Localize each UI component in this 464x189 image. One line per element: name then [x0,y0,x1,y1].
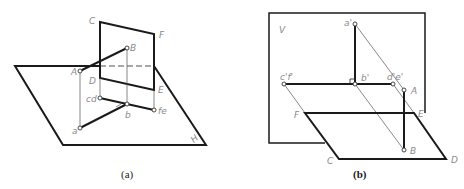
point-A [78,69,82,73]
label-F: F [294,110,300,120]
label-fe: fe [158,106,167,116]
point-B [125,46,129,50]
caption-b: (b) [353,168,367,181]
label-B: B [130,43,136,53]
point-A [402,88,406,92]
point-de-prime [391,82,395,86]
label-b: b [125,110,131,120]
figure-a: C F B A D E cd b fe a H (a) [15,16,206,181]
label-C: C [89,16,96,26]
plane-cdef-horizontal [305,113,446,159]
label-E: E [158,85,164,95]
label-de-prime: d'e' [387,72,403,82]
label-D: D [451,155,458,165]
point-a [78,126,82,130]
caption-a: (a) [121,168,134,181]
label-B: B [410,146,416,156]
line-ab [80,48,127,71]
point-b [125,102,129,106]
point-cd [98,96,102,100]
label-a: a [72,126,78,136]
diagram-canvas: C F B A D E cd b fe a H (a) [0,0,464,189]
h-plane-outline [15,66,206,145]
diag-cf-prime [284,84,305,113]
label-b-prime: b' [361,73,369,83]
label-cf-prime: c'f' [280,72,293,82]
label-C: C [327,156,334,166]
label-a-prime: a' [344,18,352,28]
label-A: A [70,67,77,77]
label-F: F [159,30,165,40]
line-ab-projection [80,104,127,128]
figure-b: V a' c'f' b' d'e' A F E B C D (b) [269,13,458,181]
point-b-prime [353,82,357,86]
diag-b-prime [355,84,404,150]
point-cf-prime [282,82,286,86]
label-D: D [89,76,96,86]
label-E: E [418,109,424,119]
label-V: V [279,25,286,35]
point-a-prime [353,22,357,26]
point-B [402,148,406,152]
point-fe [152,108,156,112]
label-cd: cd [86,94,97,104]
label-A: A [410,86,417,96]
